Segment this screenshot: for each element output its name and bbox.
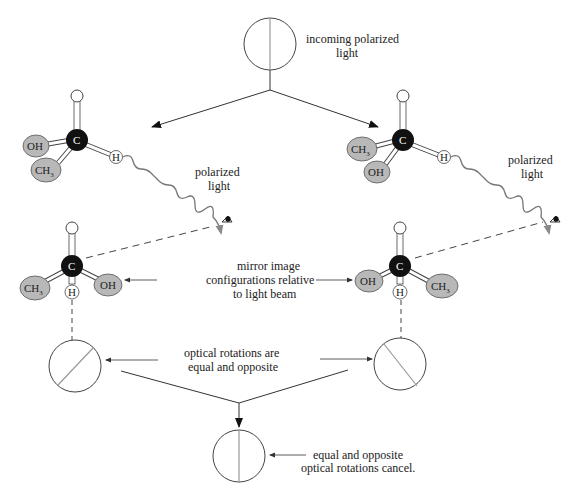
rotations-label-1: optical rotations are <box>184 346 279 360</box>
atom-top <box>71 90 83 102</box>
svg-text:OH: OH <box>27 140 43 152</box>
converge-line-right <box>239 370 348 403</box>
molecule-mid-left: CH3 OH C H <box>20 222 122 300</box>
split-arrow-left <box>152 90 270 127</box>
polarizer-final <box>213 430 265 482</box>
svg-text:C: C <box>399 134 406 146</box>
molecule-top-left: OH CH3 C H <box>23 90 123 182</box>
sightline-right <box>415 222 543 258</box>
mirror-label-2: configurations relative <box>206 273 314 287</box>
svg-text:OH: OH <box>368 166 384 178</box>
molecule-mid-right: OH CH3 C H <box>355 222 458 299</box>
svg-text:OH: OH <box>100 279 116 291</box>
molecule-top-right: CH3 OH C H <box>347 90 451 183</box>
split-arrow-right <box>270 90 378 127</box>
svg-text:H: H <box>68 286 76 298</box>
svg-text:H: H <box>112 151 120 163</box>
svg-text:C: C <box>396 260 403 272</box>
svg-text:C: C <box>73 134 80 146</box>
eye-icon-right <box>550 216 560 222</box>
cancel-label-2: optical rotations cancel. <box>301 461 415 475</box>
mirror-label-3: to light beam <box>233 287 297 301</box>
sightline-left <box>86 226 214 258</box>
rotations-label-2: equal and opposite <box>188 360 278 374</box>
svg-text:OH: OH <box>360 275 376 287</box>
incoming-polarizer <box>244 18 296 90</box>
polarized-label-left-1: polarized <box>195 165 240 179</box>
eye-icon-left <box>222 216 232 222</box>
optical-rotation-diagram: incoming polarized light OH CH3 C H pola… <box>0 0 579 499</box>
polarizer-rotated-left <box>49 340 101 392</box>
polarized-label-right-1: polarized <box>508 153 553 167</box>
polarizer-rotated-right <box>374 338 426 390</box>
svg-text:C: C <box>68 260 75 272</box>
cancel-label-1: equal and opposite <box>313 448 403 462</box>
svg-text:H: H <box>396 286 404 298</box>
mirror-label-1: mirror image <box>237 259 300 273</box>
svg-text:H: H <box>440 151 448 163</box>
polarized-label-left-2: light <box>208 179 231 193</box>
incoming-label-line1: incoming polarized <box>306 32 399 46</box>
incoming-label-line2: light <box>336 46 359 60</box>
converge-line-left <box>121 371 239 403</box>
polarized-label-right-2: light <box>521 167 544 181</box>
